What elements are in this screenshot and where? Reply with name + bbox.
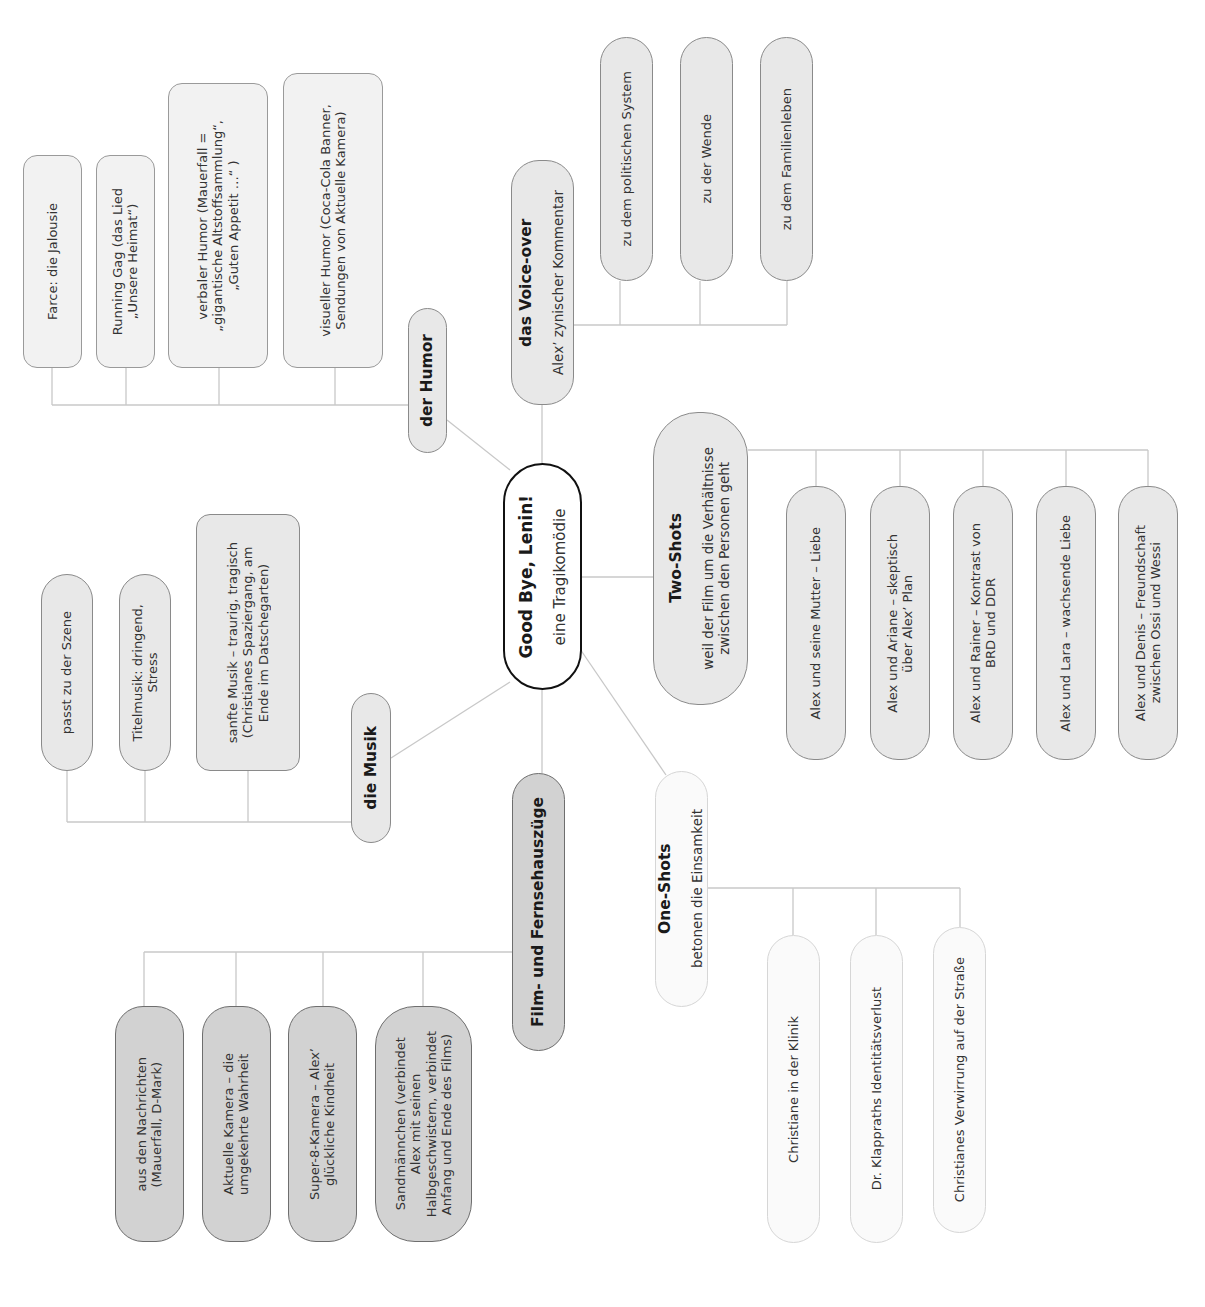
humor-child-running-gag[interactable]: Running Gag (das Lied „Unsere Heimat“) <box>96 155 155 368</box>
branch-twoshots-title: Two-Shots <box>668 447 686 670</box>
voiceover-child-wende[interactable]: zu der Wende <box>680 37 733 281</box>
twoshots-child-ariane[interactable]: Alex und Ariane – skeptisch über Alex’ P… <box>870 486 930 760</box>
twoshots-child-label: Alex und Ariane – skeptisch über Alex’ P… <box>885 534 916 713</box>
musik-child-szene[interactable]: passt zu der Szene <box>41 574 93 771</box>
humor-child-farce[interactable]: Farce: die Jalousie <box>23 155 82 368</box>
twoshots-child-lara[interactable]: Alex und Lara – wachsende Liebe <box>1036 486 1096 760</box>
twoshots-child-rainer[interactable]: Alex und Rainer – Kontrast von BRD und D… <box>953 486 1013 760</box>
musik-child-titelmusik[interactable]: Titelmusik: dringend, Stress <box>119 574 171 771</box>
musik-child-label: sanfte Musik – traurig, tragisch (Christ… <box>225 542 271 743</box>
oneshots-child-klinik[interactable]: Christiane in der Klinik <box>767 935 820 1243</box>
branch-oneshots-title: One-Shots <box>657 809 675 968</box>
twoshots-child-label: Alex und Denis – Freundschaft zwischen O… <box>1133 525 1164 721</box>
branch-twoshots[interactable]: Two-Shots weil der Film um die Verhältni… <box>653 412 748 705</box>
film-child-nachrichten[interactable]: aus den Nachrichten (Mauerfall, D-Mark) <box>115 1006 184 1242</box>
musik-child-label: Titelmusik: dringend, Stress <box>130 604 161 742</box>
branch-humor-title: der Humor <box>418 334 436 427</box>
branch-oneshots-subtitle: betonen die Einsamkeit <box>690 809 706 968</box>
branch-voiceover[interactable]: das Voice-over Alex’ zynischer Kommentar <box>511 160 574 405</box>
mind-map: Good Bye, Lenin! eine Tragikomödie der H… <box>0 0 1205 1307</box>
voiceover-child-label: zu der Wende <box>699 114 714 204</box>
musik-child-sanfte[interactable]: sanfte Musik – traurig, tragisch (Christ… <box>196 514 300 771</box>
film-child-label: Super-8-Kamera – Alex’ glückliche Kindhe… <box>307 1048 338 1200</box>
twoshots-child-label: Alex und Lara – wachsende Liebe <box>1058 515 1073 732</box>
humor-child-verbal[interactable]: verbaler Humor (Mauerfall = „gigantische… <box>168 83 268 368</box>
oneshots-child-label: Christiane in der Klinik <box>786 1016 801 1163</box>
twoshots-child-denis[interactable]: Alex und Denis – Freundschaft zwischen O… <box>1118 486 1178 760</box>
oneshots-child-label: Christianes Verwirrung auf der Straße <box>952 957 967 1202</box>
center-title: Good Bye, Lenin! <box>516 495 536 659</box>
humor-child-label: Running Gag (das Lied „Unsere Heimat“) <box>110 188 141 335</box>
humor-child-label: verbaler Humor (Mauerfall = „gigantische… <box>195 120 241 332</box>
branch-musik-title: die Musik <box>362 726 380 810</box>
oneshots-child-klapprath[interactable]: Dr. Klappraths Identitätsverlust <box>850 935 903 1243</box>
voiceover-child-family[interactable]: zu dem Familienleben <box>760 37 813 281</box>
voiceover-child-label: zu dem Familienleben <box>779 88 794 230</box>
film-child-sandmaennchen[interactable]: Sandmännchen (verbindet Alex mit seinen … <box>375 1006 472 1242</box>
humor-child-visual[interactable]: visueller Humor (Coca-Cola Banner, Sendu… <box>283 73 383 368</box>
musik-child-label: passt zu der Szene <box>59 611 74 734</box>
branch-oneshots[interactable]: One-Shots betonen die Einsamkeit <box>655 771 708 1007</box>
branch-film-title: Film- und Fernsehauszüge <box>529 797 547 1027</box>
film-child-aktuelle-kamera[interactable]: Aktuelle Kamera – die umgekehrte Wahrhei… <box>202 1006 271 1242</box>
branch-voiceover-title: das Voice-over <box>518 190 536 375</box>
humor-child-label: Farce: die Jalousie <box>45 203 60 320</box>
branch-musik[interactable]: die Musik <box>351 693 391 843</box>
film-child-label: Sandmännchen (verbindet Alex mit seinen … <box>393 1031 454 1217</box>
oneshots-child-label: Dr. Klappraths Identitätsverlust <box>869 987 884 1190</box>
humor-child-label: visueller Humor (Coca-Cola Banner, Sendu… <box>318 104 349 337</box>
oneshots-child-verwirrung[interactable]: Christianes Verwirrung auf der Straße <box>933 927 986 1233</box>
center-subtitle: eine Tragikomödie <box>551 495 569 659</box>
voiceover-child-label: zu dem politischen System <box>619 71 634 246</box>
voiceover-child-political[interactable]: zu dem politischen System <box>600 37 653 281</box>
center-node[interactable]: Good Bye, Lenin! eine Tragikomödie <box>503 463 582 690</box>
film-child-super8[interactable]: Super-8-Kamera – Alex’ glückliche Kindhe… <box>288 1006 357 1242</box>
branch-voiceover-subtitle: Alex’ zynischer Kommentar <box>551 190 567 375</box>
twoshots-child-label: Alex und Rainer – Kontrast von BRD und D… <box>968 523 999 723</box>
branch-film[interactable]: Film- und Fernsehauszüge <box>512 773 565 1051</box>
branch-humor[interactable]: der Humor <box>408 308 447 453</box>
twoshots-child-mutter[interactable]: Alex und seine Mutter – Liebe <box>786 486 846 760</box>
film-child-label: Aktuelle Kamera – die umgekehrte Wahrhei… <box>221 1053 252 1195</box>
branch-twoshots-subtitle: weil der Film um die Verhältnisse zwisch… <box>701 447 733 670</box>
film-child-label: aus den Nachrichten (Mauerfall, D-Mark) <box>134 1057 165 1192</box>
twoshots-child-label: Alex und seine Mutter – Liebe <box>808 527 823 720</box>
